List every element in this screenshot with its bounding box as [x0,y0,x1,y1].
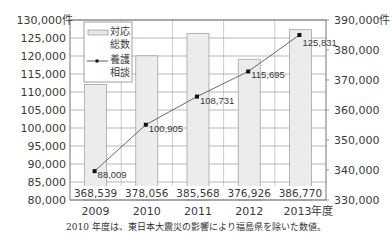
left-tick-label: 120,000 [21,50,67,63]
bar-value-label: 376,926 [227,187,271,199]
legend-label-total-1: 対応 [110,25,130,37]
bar-value-label: 368,539 [74,187,117,199]
x-category-label: 2011 [184,205,212,218]
left-tick-label: 115,000 [21,68,67,81]
bar-value-labels: 368,539378,056385,568376,926386,770 [71,186,325,199]
left-tick-label: 80,000 [28,194,67,207]
left-tick-label: 125,000 [21,32,67,45]
x-category-label: 2010 [133,205,161,218]
line-value-label: 108,731 [200,95,234,106]
bar-2011 [187,33,209,200]
combo-chart: 80,00085,00090,00095,000100,000105,00011… [0,0,392,220]
left-tick-label: 130,000件 [17,14,74,27]
right-tick-label: 350,000 [334,134,380,147]
line-marker [93,169,97,173]
right-tick-label: 380,000 [334,44,380,57]
legend: 対応 総数 養護 相談 [84,22,132,82]
legend-marker-icon [96,60,99,63]
line-marker [195,95,199,99]
left-tick-label: 105,000 [21,104,67,117]
legend-label-consult-2: 相談 [110,66,130,78]
left-axis-ticks: 80,00085,00090,00095,000100,000105,00011… [17,14,74,207]
line-marker [297,33,301,37]
bar-value-label: 378,056 [125,187,169,199]
line-value-label: 125,831 [302,37,336,48]
bar-2013 [289,30,311,200]
legend-label-consult-1: 養護 [110,53,130,65]
right-tick-label: 390,000件 [334,14,391,27]
line-value-label: 115,695 [251,69,285,80]
left-tick-label: 85,000 [28,176,67,189]
right-tick-label: 330,000 [334,194,380,207]
x-category-label: 2009 [82,205,110,218]
line-value-label: 88,009 [98,169,127,180]
right-tick-label: 340,000 [334,164,380,177]
x-category-label: 2013年度 [283,204,333,218]
x-category-label: 2012 [235,205,263,218]
legend-label-total-2: 総数 [110,38,130,50]
x-axis-labels: 20092010201120122013年度 [82,204,334,218]
footnote: 2010 年度は、東日本大震災の影響により福島県を除いた数値。 [0,220,392,233]
right-tick-label: 360,000 [334,104,380,117]
bar-value-label: 385,568 [176,187,219,199]
left-tick-label: 95,000 [28,140,67,153]
line-marker [246,69,250,73]
left-tick-label: 100,000 [21,122,67,135]
legend-bar-swatch [88,30,108,35]
left-tick-label: 110,000 [21,86,67,99]
bar-2009 [85,84,107,200]
line-marker [144,123,148,127]
line-value-label: 100,905 [149,123,183,134]
bar-value-label: 386,770 [279,187,322,199]
right-tick-label: 370,000 [334,74,380,87]
left-tick-label: 90,000 [28,158,67,171]
